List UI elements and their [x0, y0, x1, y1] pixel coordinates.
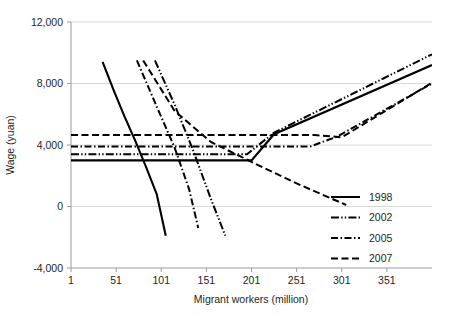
y-axis-title: Wage (yuan) — [4, 115, 16, 175]
x-tick-label: 101 — [152, 274, 170, 286]
y-tick-label: 0 — [57, 200, 63, 212]
y-tick-label: 4,000 — [37, 139, 63, 151]
legend-label-2002: 2002 — [369, 211, 393, 223]
x-axis-title: Migrant workers (million) — [194, 293, 308, 305]
legend-label-2005: 2005 — [369, 232, 393, 244]
y-tick-label: 8,000 — [37, 77, 63, 89]
x-tick-label: 301 — [333, 274, 351, 286]
y-tick-label: -4,000 — [33, 262, 63, 274]
y-tick-label: 12,000 — [31, 16, 63, 28]
legend-label-2007: 2007 — [369, 252, 393, 264]
legend-label-1998: 1998 — [369, 191, 393, 203]
wage-migrant-workers-line-chart: -4,00004,0008,00012,000 1511011512012513… — [0, 0, 450, 316]
x-tick-label: 51 — [110, 274, 122, 286]
x-tick-label: 201 — [243, 274, 261, 286]
x-tick-label: 151 — [198, 274, 216, 286]
x-tick-label: 251 — [288, 274, 306, 286]
x-tick-label: 1 — [68, 274, 74, 286]
x-tick-label: 351 — [378, 274, 396, 286]
chart-background — [0, 0, 450, 316]
chart-figure: -4,00004,0008,00012,000 1511011512012513… — [0, 0, 450, 316]
